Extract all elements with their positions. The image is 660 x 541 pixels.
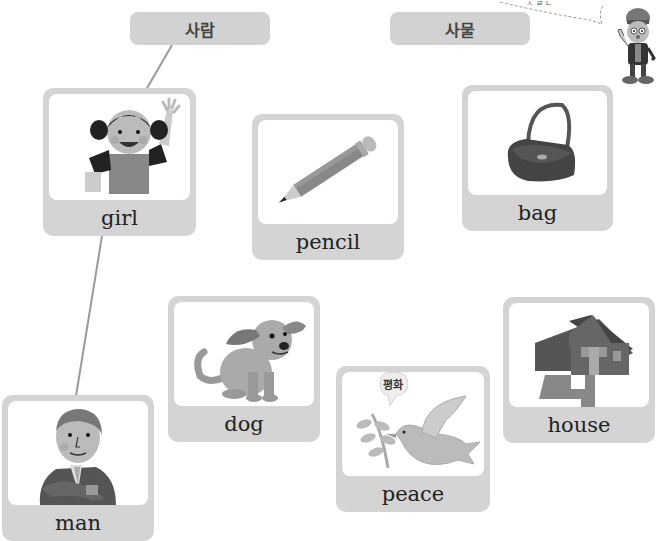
house-icon <box>509 303 649 407</box>
dove-caption: 평화 <box>383 378 403 392</box>
card-pencil-picture <box>258 120 398 224</box>
card-dog[interactable]: dog <box>168 296 320 442</box>
girl-waving-icon <box>49 94 190 200</box>
card-dog-picture <box>174 302 314 406</box>
card-house-label: house <box>509 407 649 443</box>
category-person-label: 사람 <box>185 17 215 41</box>
pencil-icon <box>258 120 398 224</box>
card-pencil-label: pencil <box>258 224 398 260</box>
card-girl[interactable]: girl <box>43 88 196 236</box>
card-bag-label: bag <box>468 195 607 231</box>
line-girl-to-man <box>76 236 102 396</box>
dove-icon: 평화 <box>342 372 484 476</box>
card-peace-picture: 평화 <box>342 372 484 476</box>
man-arms-crossed-icon <box>8 401 148 505</box>
card-house-picture <box>509 303 649 407</box>
category-thing: 사물 <box>390 12 530 45</box>
card-girl-picture <box>49 94 190 200</box>
category-thing-label: 사물 <box>445 17 475 41</box>
dog-icon <box>174 302 314 406</box>
svg-text:ㅅ ㄹ ㄴ: ㅅ ㄹ ㄴ <box>526 0 552 8</box>
card-house[interactable]: house <box>503 297 655 443</box>
card-man-picture <box>8 401 148 505</box>
card-peace[interactable]: 평화 peace <box>336 366 490 512</box>
card-bag-picture <box>468 91 607 195</box>
card-man[interactable]: man <box>2 395 154 541</box>
mascot <box>612 6 658 86</box>
handbag-icon <box>468 91 607 195</box>
card-peace-label: peace <box>342 476 484 512</box>
card-bag[interactable]: bag <box>462 85 613 231</box>
card-girl-label: girl <box>49 200 190 236</box>
card-man-label: man <box>8 505 148 541</box>
card-pencil[interactable]: pencil <box>252 114 404 260</box>
mascot-character-icon <box>612 6 658 86</box>
line-person-to-girl <box>146 45 172 90</box>
category-person: 사람 <box>130 12 270 45</box>
card-dog-label: dog <box>174 406 314 442</box>
